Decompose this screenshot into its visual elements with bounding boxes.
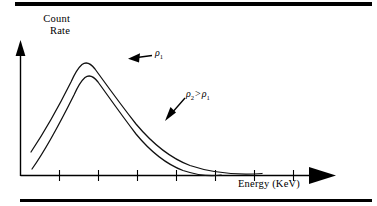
x-axis-label: Energy (KeV) bbox=[238, 178, 300, 190]
x-axis-arrow-head bbox=[309, 167, 336, 184]
rho2-subscript-right: 1 bbox=[207, 94, 210, 101]
series-label-rho2: ρ2>ρ1 bbox=[186, 88, 210, 101]
rho1-subscript: 1 bbox=[160, 53, 163, 60]
greater-than-sign: > bbox=[194, 88, 202, 99]
rho2-annotation-arrow bbox=[165, 98, 185, 121]
y-axis-arrow-head bbox=[16, 40, 26, 56]
curve-rho1 bbox=[31, 63, 262, 174]
rho1-annotation-arrow bbox=[128, 53, 152, 62]
y-axis-label: Count Rate bbox=[14, 13, 70, 37]
series-label-rho1: ρ1 bbox=[155, 47, 163, 60]
y-axis-label-line1: Count bbox=[43, 13, 70, 24]
y-axis-label-line2: Rate bbox=[14, 25, 70, 37]
figure-panel: Count Rate Energy (KeV) ρ1 ρ2>ρ1 bbox=[0, 0, 377, 206]
